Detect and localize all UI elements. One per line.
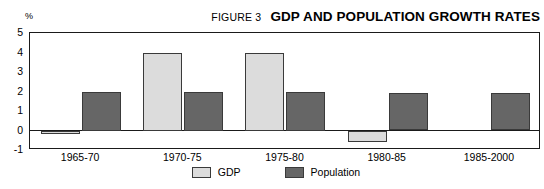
- bar-population-1985-2000: [491, 93, 530, 130]
- y-axis-tick-label: 4: [17, 46, 23, 57]
- bar-population-1975-80: [286, 92, 325, 131]
- figure-container: % FIGURE 3 GDP AND POPULATION GROWTH RAT…: [0, 0, 544, 189]
- bar-group: [337, 33, 439, 148]
- plot-frame: [29, 32, 540, 149]
- figure-header: % FIGURE 3 GDP AND POPULATION GROWTH RAT…: [0, 9, 544, 27]
- bar-population-1970-75: [184, 92, 223, 131]
- bar-gdp-1975-80: [245, 53, 284, 131]
- y-axis-tick-label: 5: [17, 27, 23, 38]
- chart-legend: GDPPopulation: [0, 167, 544, 178]
- title-block: FIGURE 3 GDP AND POPULATION GROWTH RATES: [211, 9, 540, 24]
- bar-group: [234, 33, 336, 148]
- bar-gdp-1980-85: [348, 131, 387, 143]
- y-axis-tick-label: -1: [14, 144, 23, 155]
- legend-entry: Population: [285, 167, 361, 178]
- bar-gdp-1970-75: [143, 53, 182, 131]
- y-axis-tick-label: 1: [17, 105, 23, 116]
- bar-group: [132, 33, 234, 148]
- x-axis-tick-label: 1970-75: [163, 151, 202, 163]
- y-axis-tick-label: 2: [17, 85, 23, 96]
- x-axis-tick-label: 1985-2000: [464, 151, 514, 163]
- bar-gdp-1965-70: [41, 131, 80, 135]
- page-title: GDP AND POPULATION GROWTH RATES: [270, 9, 540, 24]
- x-axis-tick-label: 1975-80: [265, 151, 304, 163]
- bar-group: [439, 33, 541, 148]
- x-axis-tick-label: 1980-85: [367, 151, 406, 163]
- legend-swatch-population: [285, 167, 304, 178]
- legend-entry: GDP: [192, 167, 241, 178]
- x-axis-tick-label: 1965-70: [61, 151, 100, 163]
- legend-swatch-gdp: [192, 167, 211, 178]
- y-axis-unit-label: %: [25, 11, 33, 21]
- bar-group: [30, 33, 132, 148]
- y-axis: 543210-1: [0, 32, 27, 149]
- legend-label: GDP: [218, 167, 241, 178]
- plot-area: [30, 33, 539, 148]
- bar-population-1965-70: [82, 92, 121, 131]
- x-axis: 1965-701970-751975-801980-851985-2000: [29, 151, 540, 165]
- legend-label: Population: [311, 167, 361, 178]
- y-axis-tick-label: 0: [17, 124, 23, 135]
- figure-number-label: FIGURE 3: [211, 11, 261, 23]
- y-axis-tick-label: 3: [17, 66, 23, 77]
- bar-population-1980-85: [389, 93, 428, 130]
